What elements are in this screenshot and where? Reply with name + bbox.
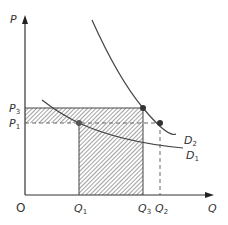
hatched-area-price-band [25,108,143,123]
x-axis-arrow-icon [205,192,214,198]
q2-label: Q2 [155,203,168,216]
x-axis-label: Q [208,203,217,214]
hatched-area-quantity-band [79,123,143,195]
point-p1-q2 [157,120,163,126]
p3-label: P3 [9,103,20,116]
d2-label: D2 [184,135,197,148]
q3-label: Q3 [138,203,151,216]
point-p1-q1 [76,120,82,126]
y-axis-arrow-icon [22,15,28,24]
demand-diagram [0,0,228,225]
p1-label: P1 [9,118,20,131]
point-p3-q3 [140,105,146,111]
origin-label: O [16,202,25,214]
d1-label: D1 [186,150,199,163]
q1-label: Q1 [74,203,87,216]
y-axis-label: P [10,14,17,25]
